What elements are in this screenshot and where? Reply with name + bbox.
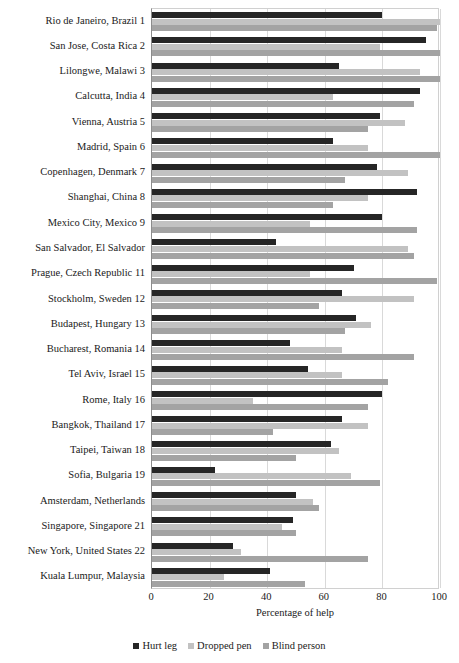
bar bbox=[152, 543, 233, 549]
bar bbox=[152, 315, 356, 321]
category-label: Taipei, Taiwan 18 bbox=[0, 444, 145, 455]
bar bbox=[152, 499, 313, 505]
bar bbox=[152, 164, 377, 170]
category-label: San Salvador, El Salvador bbox=[0, 242, 145, 253]
bar-group bbox=[152, 315, 438, 334]
legend-label: Hurt leg bbox=[142, 640, 177, 651]
category-label: Singapore, Singapore 21 bbox=[0, 520, 145, 531]
bar bbox=[152, 94, 333, 100]
category-axis-labels: Rio de Janeiro, Brazil 1San Jose, Costa … bbox=[0, 8, 148, 589]
bar bbox=[152, 303, 319, 309]
bar-group bbox=[152, 416, 438, 435]
bar bbox=[152, 101, 414, 107]
bar-group bbox=[152, 391, 438, 410]
bar bbox=[152, 423, 368, 429]
bar bbox=[152, 126, 368, 132]
bar-group bbox=[152, 340, 438, 359]
bar bbox=[152, 214, 382, 220]
chart-legend: Hurt legDropped penBlind person bbox=[0, 640, 459, 651]
bar bbox=[152, 556, 368, 562]
bar bbox=[152, 138, 333, 144]
bar bbox=[152, 12, 382, 18]
bar bbox=[152, 354, 414, 360]
bar bbox=[152, 152, 440, 158]
category-label: Tel Aviv, Israel 15 bbox=[0, 368, 145, 379]
category-label: Vienna, Austria 5 bbox=[0, 116, 145, 127]
category-label: Sofia, Bulgaria 19 bbox=[0, 469, 145, 480]
bar bbox=[152, 265, 354, 271]
bar bbox=[152, 44, 380, 50]
category-label: Bucharest, Romania 14 bbox=[0, 343, 145, 354]
bar-group bbox=[152, 239, 438, 258]
bar-group bbox=[152, 467, 438, 486]
bar bbox=[152, 455, 296, 461]
bar bbox=[152, 581, 305, 587]
bar bbox=[152, 347, 342, 353]
bar bbox=[152, 340, 290, 346]
category-label: Rio de Janeiro, Brazil 1 bbox=[0, 15, 145, 26]
bar bbox=[152, 530, 296, 536]
x-axis: 020406080100 bbox=[151, 589, 439, 605]
bar bbox=[152, 492, 296, 498]
bar-group bbox=[152, 441, 438, 460]
x-axis-tick-label: 100 bbox=[431, 591, 447, 602]
legend-swatch-icon bbox=[133, 643, 139, 649]
x-axis-title: Percentage of help bbox=[151, 607, 439, 618]
category-label: Madrid, Spain 6 bbox=[0, 141, 145, 152]
bar bbox=[152, 37, 426, 43]
bar bbox=[152, 88, 420, 94]
bar-group bbox=[152, 543, 438, 562]
bar bbox=[152, 253, 414, 259]
bar bbox=[152, 404, 368, 410]
bar bbox=[152, 296, 414, 302]
gridline bbox=[440, 9, 441, 588]
bar-group bbox=[152, 366, 438, 385]
category-label: Kuala Lumpur, Malaysia bbox=[0, 570, 145, 581]
bar-group bbox=[152, 164, 438, 183]
bar bbox=[152, 170, 408, 176]
category-label: New York, United States 22 bbox=[0, 545, 145, 556]
bar bbox=[152, 391, 382, 397]
bar bbox=[152, 448, 339, 454]
bar bbox=[152, 372, 342, 378]
bar-group bbox=[152, 138, 438, 157]
bar bbox=[152, 524, 282, 530]
x-axis-tick-label: 60 bbox=[319, 591, 330, 602]
bar-group bbox=[152, 214, 438, 233]
legend-label: Dropped pen bbox=[197, 640, 252, 651]
bar-group bbox=[152, 568, 438, 587]
bar bbox=[152, 189, 417, 195]
bar bbox=[152, 19, 440, 25]
bar bbox=[152, 429, 273, 435]
bar bbox=[152, 177, 345, 183]
x-axis-tick-label: 40 bbox=[261, 591, 272, 602]
bar bbox=[152, 120, 405, 126]
bar bbox=[152, 398, 253, 404]
legend-label: Blind person bbox=[272, 640, 326, 651]
bar bbox=[152, 195, 368, 201]
bar bbox=[152, 278, 437, 284]
bar bbox=[152, 239, 276, 245]
x-axis-tick-label: 20 bbox=[203, 591, 214, 602]
bar bbox=[152, 473, 351, 479]
category-label: Mexico City, Mexico 9 bbox=[0, 217, 145, 228]
legend-item: Dropped pen bbox=[188, 640, 252, 651]
category-label: Prague, Czech Republic 11 bbox=[0, 267, 145, 278]
bar bbox=[152, 467, 215, 473]
category-label: Stockholm, Sweden 12 bbox=[0, 293, 145, 304]
bar bbox=[152, 202, 333, 208]
bar bbox=[152, 50, 440, 56]
bar-group bbox=[152, 63, 438, 82]
legend-item: Hurt leg bbox=[133, 640, 177, 651]
bar-chart: Rio de Janeiro, Brazil 1San Jose, Costa … bbox=[0, 0, 459, 663]
bar bbox=[152, 517, 293, 523]
bar-group bbox=[152, 290, 438, 309]
legend-swatch-icon bbox=[188, 643, 194, 649]
bar bbox=[152, 221, 310, 227]
bar-group bbox=[152, 12, 438, 31]
bar bbox=[152, 69, 420, 75]
category-label: Lilongwe, Malawi 3 bbox=[0, 65, 145, 76]
category-label: Copenhagen, Denmark 7 bbox=[0, 166, 145, 177]
bar-group bbox=[152, 189, 438, 208]
category-label: Bangkok, Thailand 17 bbox=[0, 419, 145, 430]
